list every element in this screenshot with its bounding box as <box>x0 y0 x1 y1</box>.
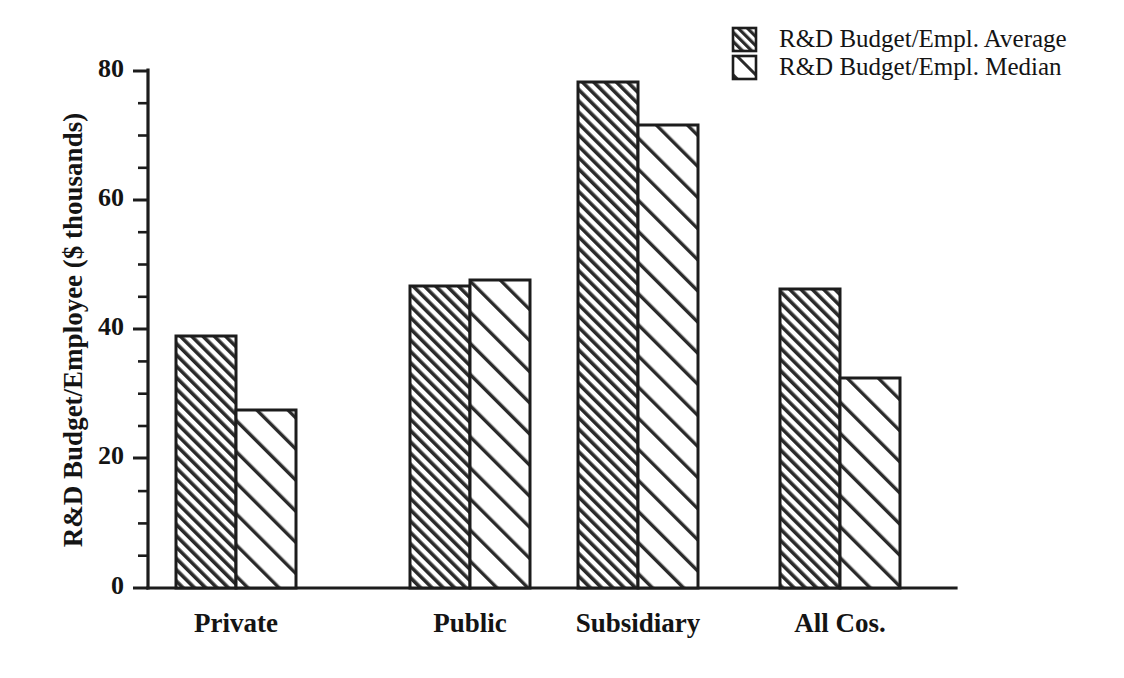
chart-figure: R&D Budget/Employee ($ thousands) <box>0 0 1124 678</box>
bar-group-public <box>410 280 530 588</box>
x-tick-label-private: Private <box>194 608 278 638</box>
y-tick-label-80: 80 <box>98 54 124 83</box>
bar-subsidiary-average <box>578 82 638 588</box>
x-tick-label-public: Public <box>433 608 507 638</box>
bar-all-cos-average <box>780 289 840 588</box>
x-tick-label-subsidiary: Subsidiary <box>576 608 701 638</box>
bar-all-cos-median <box>840 378 900 588</box>
legend-entry-median: R&D Budget/Empl. Median <box>733 53 1062 80</box>
legend-swatch-average-icon <box>733 28 756 51</box>
y-tick-label-20: 20 <box>98 441 124 470</box>
x-tick-label-all-cos: All Cos. <box>794 608 886 638</box>
y-axis-title: R&D Budget/Employee ($ thousands) <box>58 113 88 547</box>
legend-entry-average: R&D Budget/Empl. Average <box>733 25 1067 52</box>
y-axis-title-text: R&D Budget/Employee ($ thousands) <box>58 113 88 547</box>
bar-private-average <box>176 336 236 588</box>
y-tick-label-40: 40 <box>98 312 124 341</box>
legend-label-average: R&D Budget/Empl. Average <box>779 25 1067 52</box>
chart-background <box>0 0 1124 678</box>
y-tick-label-0: 0 <box>111 571 124 600</box>
bar-subsidiary-median <box>638 125 698 588</box>
bar-private-median <box>236 410 296 588</box>
legend-swatch-median-icon <box>733 56 756 79</box>
bar-chart-svg: R&D Budget/Employee ($ thousands) <box>0 0 1124 678</box>
chart-legend: R&D Budget/Empl. Average R&D Budget/Empl… <box>733 25 1067 80</box>
bar-group-subsidiary <box>578 82 698 588</box>
y-tick-label-60: 60 <box>98 183 124 212</box>
bar-public-average <box>410 286 470 588</box>
legend-label-median: R&D Budget/Empl. Median <box>779 53 1062 80</box>
bar-public-median <box>470 280 530 588</box>
